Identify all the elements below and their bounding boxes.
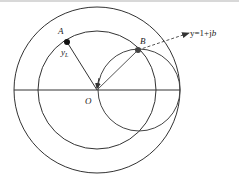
smith-chart-diagram: A yL B O y=1+jb	[0, 0, 239, 180]
label-target-admittance: y=1+jb	[190, 28, 217, 38]
label-origin: O	[85, 96, 92, 106]
dashed-arrow-line	[138, 33, 189, 50]
label-a: A	[57, 26, 64, 36]
label-yl: yL	[60, 47, 69, 58]
point-b	[135, 47, 141, 53]
point-a	[64, 39, 70, 45]
radius-oa	[67, 42, 97, 90]
label-b: B	[140, 36, 146, 46]
